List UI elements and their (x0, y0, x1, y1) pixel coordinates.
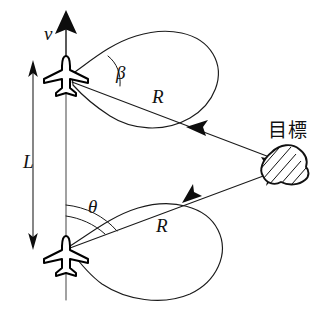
orbit-loop-upper (72, 31, 218, 128)
orbit-loop-lower (70, 204, 222, 301)
radius-label-lower: R (155, 215, 168, 236)
technical-diagram: L v R β R θ (0, 0, 331, 316)
angle-theta-label: θ (88, 196, 97, 217)
aircraft-lower (44, 236, 88, 276)
target-label: 目標 (268, 119, 307, 141)
figure-canvas: L v R β R θ (0, 0, 331, 316)
radius-label-upper: R (151, 86, 164, 107)
aircraft-upper (44, 56, 88, 96)
sight-line-upper (72, 82, 272, 158)
velocity-label: v (44, 23, 53, 44)
angle-beta-label: β (115, 62, 126, 83)
sight-line-lower (70, 168, 283, 248)
velocity-arrow (55, 10, 77, 58)
baseline-label: L (22, 151, 34, 172)
target-object (258, 140, 311, 207)
